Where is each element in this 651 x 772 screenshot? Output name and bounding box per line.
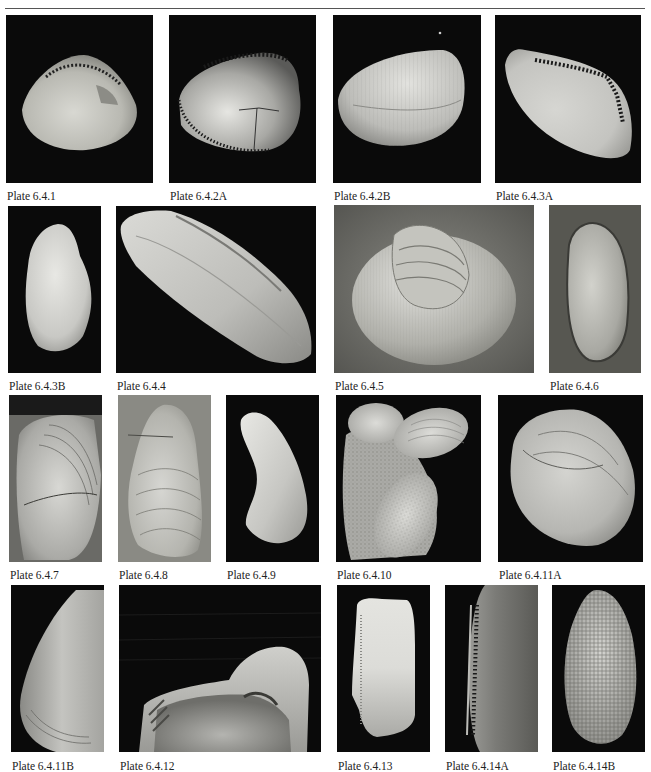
shell-image-icon	[337, 585, 430, 752]
plate-caption: Plate 6.4.12	[120, 760, 175, 772]
shell-image-icon	[498, 395, 643, 562]
shell-image-icon	[495, 15, 641, 183]
plate-caption: Plate 6.4.14A	[446, 760, 509, 772]
plate-photo	[552, 585, 645, 752]
plate-caption: Plate 6.4.9	[227, 569, 276, 581]
plate-photo	[226, 395, 319, 562]
shell-image-icon	[118, 395, 211, 562]
shell-image-icon	[445, 585, 538, 752]
plate-caption: Plate 6.4.11B	[12, 760, 74, 772]
plate-caption: Plate 6.4.3A	[496, 190, 553, 202]
shell-image-icon	[9, 395, 102, 562]
plate-photo	[11, 585, 104, 752]
shell-image-icon	[6, 15, 153, 183]
plate-photo	[498, 395, 643, 562]
shell-image-icon	[169, 15, 316, 183]
shell-image-icon	[333, 15, 481, 183]
shell-image-icon	[11, 585, 104, 752]
plate-caption: Plate 6.4.13	[338, 760, 393, 772]
plate-caption: Plate 6.4.14B	[553, 760, 615, 772]
plate-caption: Plate 6.4.5	[335, 380, 384, 392]
shell-image-icon	[549, 205, 641, 373]
shell-image-icon	[226, 395, 319, 562]
plate-photo	[116, 206, 316, 373]
plate-photo	[333, 15, 481, 183]
plate-caption: Plate 6.4.4	[117, 380, 166, 392]
shell-image-icon	[334, 205, 534, 373]
plate-photo	[119, 585, 321, 752]
shell-image-icon	[336, 395, 481, 562]
plate-photo	[6, 15, 153, 183]
plate-photo	[445, 585, 538, 752]
plate-photo	[9, 395, 102, 562]
plate-caption: Plate 6.4.11A	[499, 569, 562, 581]
shell-image-icon	[119, 585, 321, 752]
plate-caption: Plate 6.4.3B	[9, 380, 66, 392]
plate-photo	[495, 15, 641, 183]
plate-caption: Plate 6.4.10	[337, 569, 392, 581]
plate-caption: Plate 6.4.6	[550, 380, 599, 392]
plate-caption: Plate 6.4.2B	[334, 190, 391, 202]
plate-photo	[169, 15, 316, 183]
plate-caption: Plate 6.4.1	[7, 190, 56, 202]
plate-caption: Plate 6.4.7	[10, 569, 59, 581]
plate-photo	[549, 205, 641, 373]
plate-photo	[337, 585, 430, 752]
header-rule	[5, 8, 645, 9]
plate-photo	[8, 206, 101, 373]
plate-photo	[334, 205, 534, 373]
shell-image-icon	[116, 206, 316, 373]
plate-page: Plate 6.4.1 Plate 6.4.2A	[0, 0, 651, 772]
plate-caption: Plate 6.4.8	[119, 569, 168, 581]
plate-caption: Plate 6.4.2A	[170, 190, 227, 202]
shell-image-icon	[8, 206, 101, 373]
plate-photo	[118, 395, 211, 562]
running-head	[540, 0, 620, 4]
plate-photo	[336, 395, 481, 562]
shell-image-icon	[552, 585, 645, 752]
